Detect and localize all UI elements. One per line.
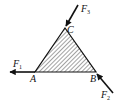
force-label-f3: F3: [80, 3, 90, 15]
force-label-f1: F1: [12, 58, 22, 70]
force-diagram: A B C F1 F2 F3: [0, 0, 125, 107]
force-label-f2: F2: [100, 89, 110, 101]
vertex-label-b: B: [90, 73, 96, 84]
vertex-label-a: A: [29, 73, 37, 84]
triangle-body: [35, 28, 96, 72]
vertex-label-c: C: [67, 24, 74, 35]
force-f3-arrow: [66, 5, 78, 26]
